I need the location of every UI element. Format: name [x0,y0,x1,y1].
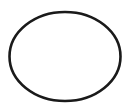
drawing-canvas [0,0,130,107]
ellipse-outline [10,12,121,101]
ellipse-drawing [0,0,130,107]
